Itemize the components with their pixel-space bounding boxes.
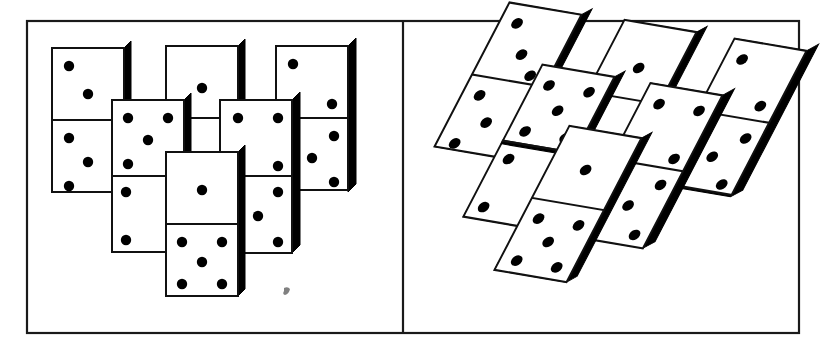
domino-figure-svg	[0, 0, 829, 358]
pip	[273, 113, 283, 123]
pip	[177, 279, 187, 289]
pip	[197, 83, 207, 93]
pip	[273, 237, 283, 247]
pip	[197, 257, 207, 267]
pip	[329, 131, 339, 141]
pip	[123, 159, 133, 169]
pip	[217, 279, 227, 289]
pip	[121, 235, 131, 245]
domino-lower-left	[112, 176, 174, 252]
pip	[83, 157, 93, 167]
domino-center-front	[166, 145, 245, 296]
pip	[143, 135, 153, 145]
pip	[163, 113, 173, 123]
panel-right-oblique	[380, 0, 818, 302]
pip	[83, 89, 93, 99]
ink-smudge	[283, 287, 290, 295]
pip	[307, 153, 317, 163]
pip	[273, 187, 283, 197]
pip	[288, 59, 298, 69]
pip	[121, 187, 131, 197]
pip	[64, 181, 74, 191]
pip	[197, 185, 207, 195]
pip	[64, 61, 74, 71]
pip	[233, 113, 243, 123]
pip	[177, 237, 187, 247]
pip	[64, 133, 74, 143]
figure-root	[0, 0, 829, 358]
pip	[217, 237, 227, 247]
pip	[273, 161, 283, 171]
pip	[329, 177, 339, 187]
panel-left-frontal	[52, 38, 356, 296]
pip	[253, 211, 263, 221]
pip	[327, 99, 337, 109]
pip	[123, 113, 133, 123]
